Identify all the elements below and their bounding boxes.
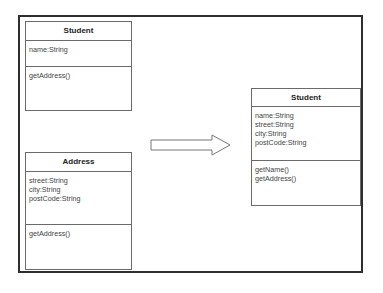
result-student-class-box: Student name:String street:String city:S…: [251, 88, 361, 206]
operation: getAddress(): [29, 229, 128, 238]
operation: getAddress(): [29, 71, 128, 80]
class-operations: getName() getAddress(): [252, 161, 360, 183]
class-operations: getAddress(): [26, 67, 131, 80]
attribute: name:String: [255, 111, 357, 120]
operation: getName(): [255, 165, 357, 174]
class-attributes: name:String street:String city:String po…: [252, 107, 360, 161]
class-name: Student: [26, 22, 131, 41]
attribute: postCode:String: [29, 194, 128, 203]
class-attributes: street:String city:String postCode:Strin…: [26, 172, 131, 225]
address-class-box: Address street:String city:String postCo…: [25, 152, 132, 270]
operation: getAddress(): [255, 174, 357, 183]
attribute: street:String: [29, 176, 128, 185]
attribute: city:String: [29, 185, 128, 194]
class-name: Address: [26, 153, 131, 172]
block-arrow-right-icon: [150, 134, 232, 156]
attribute: postCode:String: [255, 138, 357, 147]
attribute: street:String: [255, 120, 357, 129]
attribute: city:String: [255, 129, 357, 138]
class-name: Student: [252, 89, 360, 107]
attribute: name:String: [29, 45, 128, 54]
class-attributes: name:String: [26, 41, 131, 67]
class-operations: getAddress(): [26, 225, 131, 238]
student-class-box: Student name:String getAddress(): [25, 21, 132, 111]
